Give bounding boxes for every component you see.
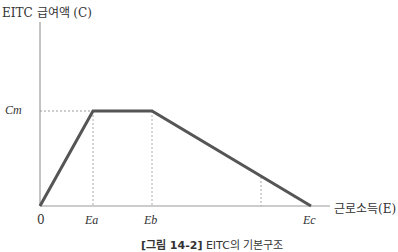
benefit-line: [40, 111, 311, 206]
tick-ea: Ea: [85, 213, 98, 228]
tick-ec: Ec: [303, 213, 316, 228]
caption-figure-number: [그림 14-2]: [141, 239, 202, 252]
y-axis-label: EITC 급여액 (C): [2, 3, 92, 20]
x-axis-label: 근로소득(E): [334, 199, 396, 216]
cm-label: Cm: [5, 103, 22, 118]
tick-eb: Eb: [144, 213, 157, 228]
tick-0: 0: [37, 213, 45, 227]
caption-text: EITC의 기본구조: [206, 239, 283, 252]
figure-caption: [그림 14-2] EITC의 기본구조: [141, 236, 283, 252]
